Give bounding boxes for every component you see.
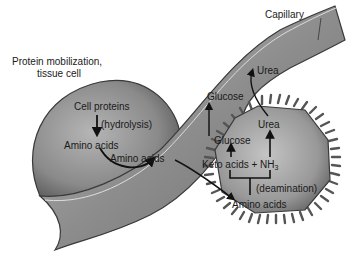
deamination-label: (deamination) <box>256 183 317 194</box>
glucose-capillary-label: Glucose <box>207 91 244 102</box>
urea-capillary-label: Urea <box>257 65 279 76</box>
amino-acids-liver-label: Amino acids <box>232 199 286 210</box>
amino-acids-capillary-label: Amino acids <box>110 153 164 164</box>
urea-liver-label: Urea <box>258 119 280 130</box>
tissue-title-line1: Protein mobilization, <box>12 56 102 67</box>
amino-acids-tissue-label: Amino acids <box>64 140 118 151</box>
keto-acids-nh3-label: Keto acids + NH3 <box>202 159 278 173</box>
keto-acids-text: Keto acids + NH <box>202 159 275 170</box>
glucose-liver-label: Glucose <box>214 135 251 146</box>
cell-proteins-label: Cell proteins <box>74 101 130 112</box>
capillary-label: Capillary <box>265 9 304 20</box>
nh3-subscript: 3 <box>275 164 279 171</box>
tissue-title-line2: tissue cell <box>37 68 81 79</box>
hydrolysis-label: (hydrolysis) <box>101 119 152 130</box>
protein-mobilization-diagram <box>0 0 357 259</box>
